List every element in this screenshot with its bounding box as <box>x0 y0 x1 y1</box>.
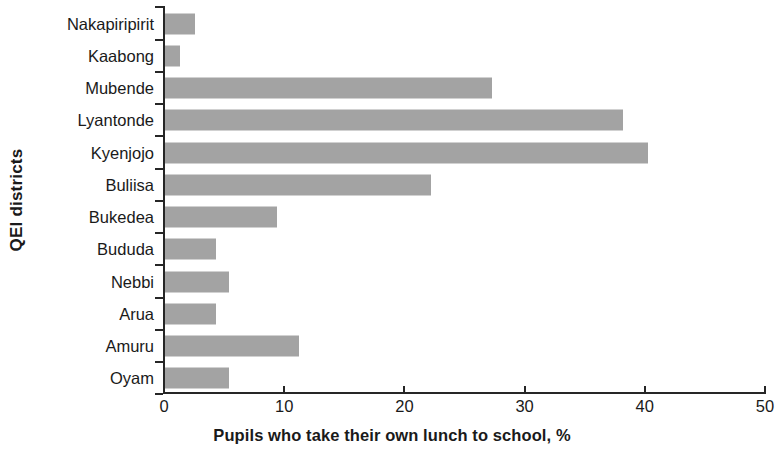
x-axis-tick-label: 0 <box>159 397 168 416</box>
y-axis-title: QEI districts <box>0 0 34 400</box>
y-axis-tick-label: Lyantonde <box>78 112 154 129</box>
bar <box>164 45 180 66</box>
x-axis-title: Pupils who take their own lunch to schoo… <box>0 426 784 445</box>
y-axis-tick <box>155 135 163 137</box>
bar <box>164 239 216 260</box>
bar <box>164 207 277 228</box>
x-axis-tick <box>403 386 405 394</box>
y-axis-tick <box>155 297 163 299</box>
x-axis-tick-label: 10 <box>275 397 293 416</box>
x-axis-tick <box>644 386 646 394</box>
y-axis-tick <box>155 232 163 234</box>
x-axis-line <box>163 392 765 394</box>
bar <box>164 78 492 99</box>
y-axis-tick-label: Mubende <box>85 80 154 97</box>
bar <box>164 13 195 34</box>
y-axis-tick-label: Nakapiripirit <box>67 15 154 32</box>
y-axis-title-text: QEI districts <box>7 149 27 252</box>
x-axis-tick-label: 40 <box>636 397 654 416</box>
x-axis-tick <box>283 386 285 394</box>
y-axis-tick-labels: NakapiripiritKaabongMubendeLyantondeKyen… <box>34 0 160 392</box>
x-axis-tick-label: 30 <box>515 397 533 416</box>
bar <box>164 174 431 195</box>
y-axis-tick-label: Arua <box>119 306 154 323</box>
y-axis-line <box>163 6 165 394</box>
y-axis-tick-label: Amuru <box>105 338 154 355</box>
y-axis-tick <box>155 6 163 8</box>
y-axis-tick <box>155 71 163 73</box>
bar <box>164 368 229 389</box>
x-axis-tick <box>524 386 526 394</box>
x-axis-tick-label: 20 <box>395 397 413 416</box>
bar <box>164 110 623 131</box>
x-axis-tick <box>163 386 165 394</box>
y-axis-tick <box>155 361 163 363</box>
y-axis-tick <box>155 393 163 395</box>
plot-area <box>164 0 765 392</box>
x-axis-tick-label: 50 <box>756 397 774 416</box>
y-axis-tick <box>155 39 163 41</box>
y-axis-tick-label: Bukedea <box>89 209 154 226</box>
bar <box>164 303 216 324</box>
bar <box>164 142 648 163</box>
y-axis-tick <box>155 329 163 331</box>
bar <box>164 271 229 292</box>
y-axis-tick-label: Nebbi <box>111 273 154 290</box>
y-axis-tick <box>155 264 163 266</box>
y-axis-tick-label: Kyenjojo <box>91 144 154 161</box>
x-axis-tick <box>764 386 766 394</box>
y-axis-tick-label: Oyam <box>110 370 154 387</box>
bar-chart: QEI districts NakapiripiritKaabongMubend… <box>0 0 784 462</box>
y-axis-tick <box>155 200 163 202</box>
bar <box>164 336 299 357</box>
y-axis-tick <box>155 168 163 170</box>
y-axis-tick-label: Buliisa <box>105 177 154 194</box>
y-axis-tick <box>155 103 163 105</box>
y-axis-tick-label: Bududa <box>97 241 154 258</box>
y-axis-tick-label: Kaabong <box>88 48 154 65</box>
